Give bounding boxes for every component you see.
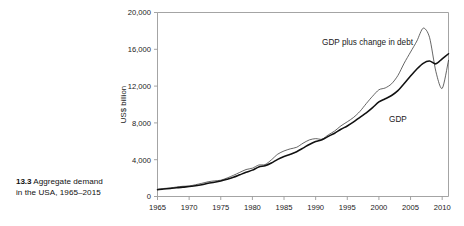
x-tick-label: 1965: [149, 203, 166, 212]
x-tick-label: 2010: [434, 203, 451, 212]
y-tick-label: 16,000: [128, 45, 151, 54]
y-tick-label: 4,000: [132, 156, 151, 165]
x-tick-label: 1990: [307, 203, 324, 212]
x-tick-label: 1970: [181, 203, 198, 212]
x-tick-label: 1985: [276, 203, 293, 212]
annotation-gdp: GDP: [389, 115, 407, 124]
y-tick-label: 20,000: [128, 8, 151, 17]
y-axis-title: US$ billion: [119, 86, 128, 123]
series-line-gdp-plus-debt: [158, 28, 449, 189]
y-axis-ticks: [154, 13, 158, 197]
figure-root: 13.3 Aggregate demand in the USA, 1965–2…: [0, 0, 464, 226]
x-axis-tick-labels: 1965197019751980198519901995200020052010: [149, 203, 451, 212]
x-tick-label: 1995: [339, 203, 356, 212]
y-axis-title-text: US$ billion: [119, 86, 128, 123]
y-axis-tick-labels: 04,0008,00012,00016,00020,000: [128, 8, 151, 201]
line-chart: 04,0008,00012,00016,00020,000 1965197019…: [0, 0, 464, 226]
y-tick-label: 8,000: [132, 119, 151, 128]
annotation-gdp-plus-debt: GDP plus change in debt: [322, 38, 414, 47]
data-series-group: [158, 28, 449, 190]
chart-svg: 04,0008,00012,00016,00020,000 1965197019…: [0, 0, 464, 226]
x-tick-label: 2005: [402, 203, 419, 212]
y-tick-label: 0: [147, 192, 151, 201]
x-tick-label: 1980: [244, 203, 261, 212]
x-tick-label: 2000: [370, 203, 387, 212]
x-axis-ticks: [158, 197, 443, 201]
y-tick-label: 12,000: [128, 82, 151, 91]
x-tick-label: 1975: [212, 203, 229, 212]
